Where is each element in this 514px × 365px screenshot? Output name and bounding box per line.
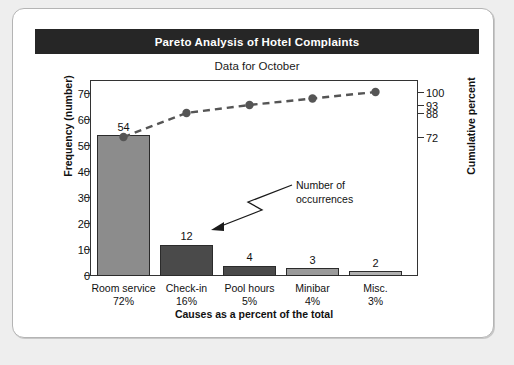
x-tick-name-minibar: Minibar	[295, 282, 329, 294]
x-tick-percent-pool-hours: 5%	[242, 295, 257, 307]
y2-tick-mark-72	[418, 137, 424, 138]
x-tick-percent-misc: 3%	[368, 295, 383, 307]
y-tick-label-50: 50	[54, 141, 90, 152]
bar-value-room-service: 54	[97, 122, 150, 133]
page-background: Pareto Analysis of Hotel Complaints Data…	[0, 0, 514, 365]
x-tick-label-misc: Misc. 3%	[337, 282, 414, 308]
y2-tick-label-72: 72	[426, 133, 438, 144]
chart-title-bar: Pareto Analysis of Hotel Complaints	[35, 29, 479, 54]
x-tick-percent-check-in: 16%	[176, 295, 197, 307]
y2-tick-label-100: 100	[426, 88, 444, 99]
x-axis-title: Causes as a percent of the total	[90, 308, 418, 320]
annotation-line-1: Number of	[296, 179, 345, 191]
y-tick-label-60: 60	[54, 115, 90, 126]
x-tick-name-check-in: Check-in	[166, 282, 207, 294]
bar-value-pool-hours: 4	[223, 252, 276, 263]
bar-value-misc: 2	[349, 258, 402, 269]
bar-value-check-in: 12	[160, 231, 213, 242]
bar-minibar[interactable]	[286, 268, 339, 276]
y-tick-label-40: 40	[54, 167, 90, 178]
y2-tick-mark-88	[418, 113, 424, 114]
y2-tick-mark-100	[418, 92, 424, 93]
page-title: Pareto Analysis of Hotel Complaints	[155, 36, 360, 48]
y-axis-right-title: Cumulative percent	[465, 46, 477, 206]
bar-misc[interactable]	[349, 271, 402, 276]
x-tick-name-misc: Misc.	[363, 282, 388, 294]
y-tick-label-20: 20	[54, 219, 90, 230]
bar-pool-hours[interactable]	[223, 266, 276, 276]
y-tick-label-70: 70	[54, 89, 90, 100]
bar-check-in[interactable]	[160, 245, 213, 276]
y2-tick-label-88: 88	[426, 109, 438, 120]
x-tick-percent-minibar: 4%	[305, 295, 320, 307]
x-tick-name-room-service: Room service	[91, 282, 155, 294]
y-tick-label-30: 30	[54, 193, 90, 204]
annotation-line-2: occurrences	[296, 193, 353, 205]
bar-room-service[interactable]	[97, 135, 150, 276]
y-tick-label-0: 0	[54, 271, 90, 282]
chart-subtitle: Data for October	[0, 60, 514, 72]
x-tick-name-pool-hours: Pool hours	[224, 282, 274, 294]
y-tick-label-10: 10	[54, 245, 90, 256]
y2-tick-mark-93	[418, 105, 424, 106]
x-tick-percent-room-service: 72%	[113, 295, 134, 307]
bar-value-minibar: 3	[286, 255, 339, 266]
annotation-number-of-occurrences: Number of occurrences	[296, 179, 353, 206]
y-axis-left-title: Frequency (number)	[62, 46, 74, 206]
